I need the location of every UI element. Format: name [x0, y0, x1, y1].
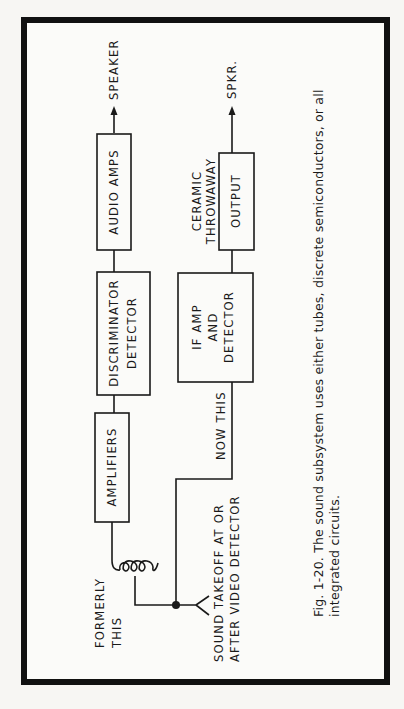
- sound-subsystem-diagram: SPEAKER AUDIO AMPS DISCRIMINATOR DETECTO…: [0, 0, 404, 709]
- if-amp-label-3: DETECTOR: [222, 291, 236, 363]
- throwaway-label: THROWAWAY: [204, 158, 218, 245]
- speaker-label: SPEAKER: [107, 39, 121, 100]
- discriminator-label-1: DISCRIMINATOR: [107, 279, 121, 387]
- takeoff-label-1: SOUND TAKEOFF AT OR: [212, 504, 226, 662]
- discriminator-block: [97, 272, 150, 395]
- if-amp-label-1: IF AMP: [190, 304, 204, 350]
- amplifiers-label: AMPLIFIERS: [105, 427, 119, 506]
- spkr-label: SPKR.: [225, 60, 239, 99]
- formerly-label-1: FORMERLY: [93, 578, 107, 648]
- if-amp-label-2: AND: [206, 313, 220, 342]
- ceramic-label: CERAMIC: [190, 171, 204, 231]
- discriminator-label-2: DETECTOR: [125, 297, 139, 369]
- formerly-label-2: THIS: [110, 617, 124, 649]
- junction-dot-icon: [172, 601, 180, 609]
- takeoff-label-2: AFTER VIDEO DETECTOR: [228, 495, 242, 662]
- caption-line-2: integrated circuits.: [327, 495, 342, 617]
- caption-line-1: Fig. 1-20. The sound subsystem uses eith…: [311, 89, 326, 617]
- output-label: OUTPUT: [229, 174, 243, 228]
- audio-amps-label: AUDIO AMPS: [107, 149, 121, 234]
- now-this-label: NOW THIS: [214, 391, 228, 460]
